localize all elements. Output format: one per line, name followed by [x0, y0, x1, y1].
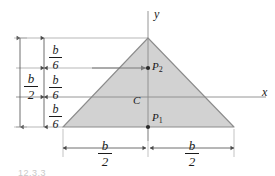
vertical-dimension-segment-2-label: b 6: [49, 74, 62, 101]
centroid-label: C: [133, 95, 140, 106]
point-p1-base: P: [152, 111, 159, 123]
y-axis-label: y: [154, 8, 159, 20]
vertical-dimension-total-numerator: b: [24, 72, 38, 85]
point-p2-label: P2: [152, 61, 163, 74]
point-p1-marker: [146, 125, 150, 129]
segment-2-numerator: b: [49, 74, 62, 86]
horizontal-left-numerator: b: [98, 139, 112, 152]
vertical-dimension-segment-1-label: b 6: [49, 44, 62, 71]
vertical-dimension-total-label: b 2: [24, 72, 38, 101]
point-p1-subscript: 1: [159, 116, 163, 125]
x-axis-label: x: [262, 86, 267, 98]
vertical-dimension-total-denominator: 2: [24, 88, 38, 101]
horizontal-left-denominator: 2: [98, 155, 112, 168]
horizontal-dimension-left-label: b 2: [98, 139, 112, 168]
point-p2-base: P: [152, 60, 159, 72]
figure-caption: 12.3.3: [18, 168, 46, 176]
figure-container: y x P2 P1 C b 2 b 6 b 6 b 6 b 2 b 2: [0, 0, 275, 176]
horizontal-dimension-right-label: b 2: [185, 139, 199, 168]
segment-1-denominator: 6: [49, 59, 62, 71]
point-p2-marker: [146, 66, 150, 70]
segment-3-denominator: 6: [49, 118, 62, 130]
segment-3-numerator: b: [49, 103, 62, 115]
horizontal-right-denominator: 2: [185, 155, 199, 168]
segment-2-denominator: 6: [49, 89, 62, 101]
vertical-dimension-segment-3-label: b 6: [49, 103, 62, 130]
horizontal-dimensions: [63, 129, 234, 157]
point-p2-subscript: 2: [159, 65, 163, 74]
segment-1-numerator: b: [49, 44, 62, 56]
point-p1-label: P1: [152, 112, 163, 125]
horizontal-right-numerator: b: [185, 139, 199, 152]
diagram-canvas: [0, 0, 275, 176]
triangle-shape: [63, 38, 234, 127]
